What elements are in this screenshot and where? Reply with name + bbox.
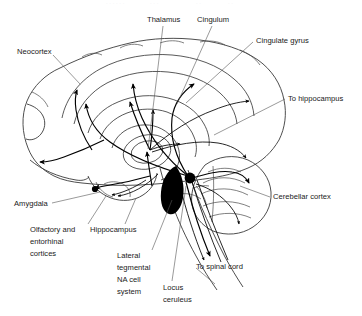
cerebellar-folium-3 — [201, 189, 248, 195]
label-olfactory-line-3: cortices — [30, 249, 56, 258]
label-cingulum: Cingulum — [197, 15, 229, 24]
leader-amygdala — [52, 192, 100, 203]
label-cingulate-gyrus: Cingulate gyrus — [256, 36, 309, 45]
svg-text:. .: . . — [228, 0, 233, 5]
tract-to-amygdala — [95, 176, 150, 188]
label-locus-ceruleus: Locus ceruleus — [163, 283, 192, 304]
leader-to-hippocampus — [214, 99, 285, 135]
svg-text:. . .: . . . — [150, 0, 159, 5]
leader-line-group — [52, 26, 285, 284]
frontal-pole-fold — [26, 104, 45, 140]
tract-to-orbital-cortex — [40, 140, 104, 162]
label-olfactory-line-2: entorhinal — [30, 237, 64, 246]
brain-outline-group — [23, 38, 285, 290]
basal-surface — [30, 160, 89, 180]
locus-ceruleus-nucleus — [185, 173, 196, 184]
leader-cerebellar-cortex — [240, 186, 270, 197]
label-thalamus: Thalamus — [147, 15, 181, 24]
label-to-hippocampus: To hippocampus — [288, 94, 344, 103]
tract-to-cerebellum — [192, 171, 249, 183]
dorsal-gyrus-5 — [240, 50, 260, 65]
label-lateral-tegmental-line-1: Lateral — [117, 251, 141, 260]
cingulate-gyrus-inner — [74, 71, 237, 124]
cingulate-gyrus-outer — [62, 55, 254, 118]
label-lateral-tegmental-na-cell-system: Lateral tegmental NA cell system — [117, 251, 151, 296]
cerebellum-outline — [192, 157, 272, 234]
label-amygdala: Amygdala — [14, 199, 49, 208]
label-neocortex: Neocortex — [17, 47, 52, 56]
svg-text:. . . . . .: . . . . . . — [106, 0, 125, 5]
amygdala-nucleus-dot — [92, 186, 98, 192]
brain-pathway-diagram: . . . . . . . . . . . . . — [0, 0, 362, 316]
dorsal-gyrus-3 — [160, 41, 184, 43]
cerebellar-vermis — [212, 166, 214, 222]
leader-hippocampus — [125, 198, 136, 224]
leader-cingulate-gyrus — [186, 42, 253, 103]
label-to-spinal-cord: To spinal cord — [196, 262, 243, 271]
neuroanatomy-figure: . . . . . . . . . . . . . — [0, 0, 362, 316]
cerebrum-outline — [23, 38, 285, 185]
cerebellar-folium-5 — [209, 213, 251, 218]
label-olfactory-line-1: Olfactory and — [30, 225, 75, 234]
leader-thalamus — [148, 26, 163, 149]
label-lateral-tegmental-line-3: NA cell — [117, 275, 141, 284]
frontal-gyrus-1 — [32, 92, 48, 107]
label-lateral-tegmental-line-4: system — [117, 287, 141, 296]
leader-olfactory — [88, 196, 106, 224]
noradrenergic-tract-group — [40, 84, 249, 262]
label-lateral-tegmental-line-2: tegmental — [117, 263, 151, 272]
leader-lateral-tegmental — [152, 200, 172, 250]
label-olfactory-entorhinal-cortices: Olfactory and entorhinal cortices — [30, 225, 75, 258]
leader-cingulum — [177, 26, 212, 104]
clipped-caption-ghost: . . . . . . . . . . . . . — [106, 0, 233, 5]
label-locus-ceruleus-line-2: ceruleus — [163, 295, 192, 304]
tract-cingulum-posterior — [150, 101, 249, 150]
tract-frontal-ascending — [75, 90, 92, 150]
nuclei-group — [92, 166, 196, 214]
corpus-callosum-inner — [100, 109, 196, 157]
svg-text:. .: . . — [196, 0, 201, 5]
label-locus-ceruleus-line-1: Locus — [163, 283, 183, 292]
label-hippocampus: Hippocampus — [90, 225, 137, 234]
label-cerebellar-cortex: Cerebellar cortex — [273, 192, 331, 201]
